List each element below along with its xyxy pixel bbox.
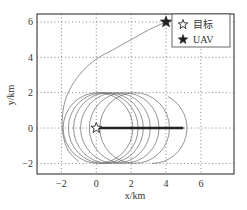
chart: −20246−20246 x/km y/km 目标 UAV — [0, 0, 247, 210]
y-tick-label: −2 — [22, 158, 33, 169]
x-tick-label: −2 — [56, 178, 67, 189]
y-axis-label: y/km — [5, 85, 16, 106]
legend-label-target: 目标 — [193, 19, 213, 30]
x-tick-label: 0 — [94, 178, 99, 189]
y-tick-label: 2 — [28, 87, 33, 98]
legend-label-uav: UAV — [193, 34, 214, 45]
x-tick-label: 6 — [198, 178, 203, 189]
legend: 目标 UAV — [172, 14, 230, 47]
x-axis-label: x/km — [125, 190, 146, 201]
x-tick-label: 4 — [164, 178, 169, 189]
x-tick-label: 2 — [129, 178, 134, 189]
y-tick-label: 4 — [28, 52, 33, 63]
y-tick-label: 0 — [28, 123, 33, 134]
y-tick-label: 6 — [28, 16, 33, 27]
